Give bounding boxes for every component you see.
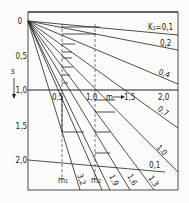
diagram: 0 0,5 1,0 1,5 2,0 s 0,5 1,0 1,5 2,0 m K₁…: [0, 0, 189, 203]
curve-label: K₁=0,1: [148, 23, 173, 32]
x-axis-label: m: [106, 93, 113, 102]
curve-label: 3,2: [75, 173, 87, 187]
ray-k-1.9: [28, 21, 110, 190]
y-axis-label: s: [11, 67, 15, 76]
curve-label: 1,0: [155, 143, 170, 158]
x-tick-label: 1,5: [124, 93, 135, 102]
curve-label: 1,3: [146, 174, 160, 189]
bottom-line-label: 0,1: [149, 161, 160, 170]
m2-label: m₂: [91, 176, 101, 185]
ray-k-3.2: [28, 21, 80, 190]
y-tick-label: 0: [17, 17, 22, 26]
y-tick-label: 1,0: [16, 86, 28, 95]
y-tick-label: 2,0: [16, 156, 28, 165]
y-tick-label: 0,5: [16, 52, 27, 61]
x-tick-label: 0,5: [52, 93, 63, 102]
m1-label: m₁: [58, 176, 68, 185]
curve-label: 1,9: [107, 173, 120, 188]
curve-label: 0,2: [160, 39, 171, 48]
curve-label: 0,4: [157, 67, 171, 80]
y-tick-label: 1,5: [16, 122, 27, 131]
curve-label: 0,7: [156, 104, 171, 118]
x-tick-label: 1,0: [86, 93, 98, 102]
down-arrow-head-icon: [12, 94, 16, 99]
x-tick-label: 2,0: [158, 93, 170, 102]
